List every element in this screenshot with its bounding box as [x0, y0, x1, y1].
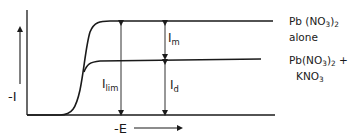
- legend-pb-kno3-additive: KNO3: [289, 70, 348, 86]
- curve-pb-kno3: [84, 59, 261, 72]
- legend-pb-alone-note: alone: [289, 31, 339, 44]
- y-axis-label: -I: [8, 90, 17, 103]
- id-label: Id: [170, 79, 179, 93]
- im-label: Im: [168, 32, 180, 46]
- legend-pb-kno3: Pb(NO3)2 + KNO3: [289, 54, 348, 86]
- x-axis-label: -E: [114, 122, 127, 135]
- legend-pb-kno3-formula: Pb(NO3)2 +: [289, 54, 348, 70]
- legend-pb-alone: Pb (NO3)2 alone: [289, 15, 339, 44]
- ilim-label: Ilim: [102, 78, 118, 92]
- curve-pb-alone: [27, 21, 273, 115]
- legend-pb-alone-formula: Pb (NO3)2: [289, 15, 339, 31]
